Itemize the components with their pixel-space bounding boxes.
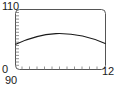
- x-axis-min-label: 90: [5, 75, 17, 86]
- y-axis-max-label: 110: [2, 1, 19, 12]
- chart-container: 110 0 90 12: [0, 0, 117, 91]
- plot-frame: [16, 10, 106, 70]
- plot-area: [0, 0, 117, 91]
- x-axis-max-label: 12: [102, 66, 114, 77]
